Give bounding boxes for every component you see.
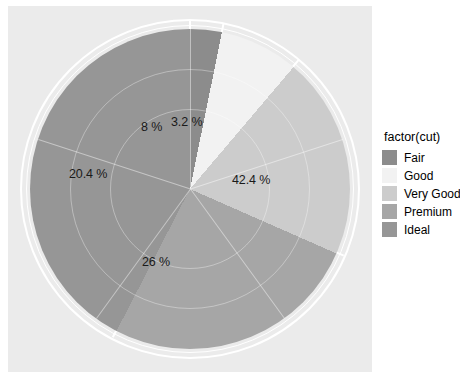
legend-swatch-icon bbox=[382, 222, 397, 237]
legend-item-label: Premium bbox=[404, 205, 452, 219]
legend-item-label: Fair bbox=[404, 151, 425, 165]
slice-label-fair: 3.2 % bbox=[171, 115, 202, 129]
legend-item-very-good[interactable]: Very Good bbox=[382, 185, 460, 202]
legend: factor(cut) FairGoodVery GoodPremiumIdea… bbox=[382, 130, 460, 239]
legend-items: FairGoodVery GoodPremiumIdeal bbox=[382, 149, 460, 238]
legend-item-label: Very Good bbox=[404, 187, 460, 201]
legend-swatch-icon bbox=[382, 168, 397, 183]
slice-label-very-good: 20.4 % bbox=[69, 167, 107, 181]
slice-label-ideal: 42.4 % bbox=[232, 173, 270, 187]
legend-item-ideal[interactable]: Ideal bbox=[382, 221, 460, 238]
legend-swatch-icon bbox=[382, 204, 397, 219]
plot-panel: 42.4 % 26 % 20.4 % 8 % 3.2 % bbox=[8, 6, 372, 372]
legend-item-label: Ideal bbox=[404, 223, 430, 237]
pie-chart-screenshot: 42.4 % 26 % 20.4 % 8 % 3.2 % factor(cut)… bbox=[0, 0, 460, 380]
legend-swatch-icon bbox=[382, 150, 397, 165]
legend-item-fair[interactable]: Fair bbox=[382, 149, 460, 166]
pie-area bbox=[30, 29, 350, 349]
slice-label-good: 8 % bbox=[141, 120, 162, 134]
legend-title: factor(cut) bbox=[384, 130, 460, 144]
slice-label-premium: 26 % bbox=[142, 255, 170, 269]
polar-axis-tick bbox=[189, 20, 191, 29]
legend-swatch-icon bbox=[382, 186, 397, 201]
radial-arc-gridline bbox=[70, 69, 310, 309]
legend-item-good[interactable]: Good bbox=[382, 167, 460, 184]
legend-item-label: Good bbox=[404, 169, 433, 183]
legend-item-premium[interactable]: Premium bbox=[382, 203, 460, 220]
